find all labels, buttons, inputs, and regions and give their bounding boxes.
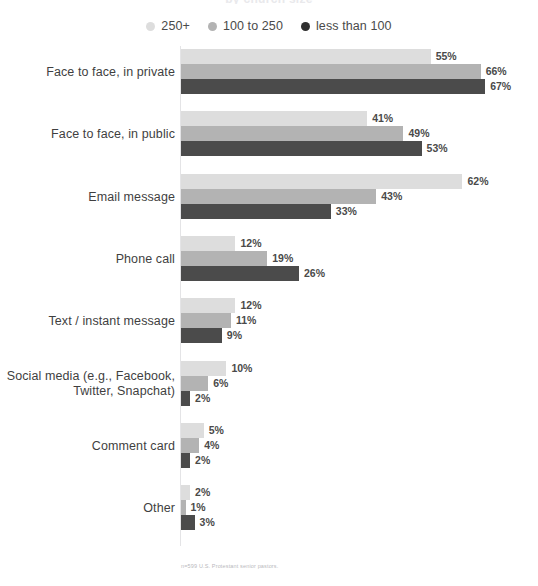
bar-value-label: 26%: [299, 266, 325, 281]
bar[interactable]: [181, 79, 485, 94]
bar[interactable]: [181, 126, 403, 141]
bar-value-label: 2%: [190, 453, 210, 468]
chart-group: Phone call12%19%26%: [0, 236, 538, 283]
bar[interactable]: [181, 49, 431, 64]
bar[interactable]: [181, 174, 462, 189]
category-label: Face to face, in public: [0, 111, 175, 158]
bar-value-label: 3%: [195, 515, 215, 530]
bar[interactable]: [181, 189, 376, 204]
category-label: Text / instant message: [0, 298, 175, 345]
bar-value-label: 5%: [204, 423, 224, 438]
bar-row: 6%: [181, 376, 538, 391]
bar-value-label: 66%: [481, 64, 507, 79]
bar-row: 9%: [181, 328, 538, 343]
chart-group: Face to face, in private55%66%67%: [0, 49, 538, 96]
bar-row: 43%: [181, 189, 538, 204]
category-label: Phone call: [0, 236, 175, 283]
category-label-line: Face to face, in private: [46, 65, 175, 80]
chart-group: Social media (e.g., Facebook,Twitter, Sn…: [0, 361, 538, 408]
category-label-line: Email message: [88, 190, 175, 205]
bar-row: 12%: [181, 236, 538, 251]
bar[interactable]: [181, 423, 204, 438]
bar-stack: 12%19%26%: [181, 236, 538, 283]
category-label-line: Social media (e.g., Facebook,: [7, 369, 175, 384]
bar-row: 49%: [181, 126, 538, 141]
bar[interactable]: [181, 391, 190, 406]
bar-stack: 10%6%2%: [181, 361, 538, 408]
chart-group: Comment card5%4%2%: [0, 423, 538, 470]
bar[interactable]: [181, 236, 235, 251]
bar-stack: 55%66%67%: [181, 49, 538, 96]
legend-item[interactable]: 100 to 250: [208, 19, 283, 33]
bar-value-label: 2%: [190, 485, 210, 500]
bar-value-label: 12%: [235, 298, 261, 313]
category-label-line: Twitter, Snapchat): [73, 384, 175, 399]
bar[interactable]: [181, 328, 222, 343]
chart-plot-area: Face to face, in private55%66%67%Face to…: [0, 46, 538, 551]
bar-value-label: 6%: [208, 376, 228, 391]
bar[interactable]: [181, 298, 235, 313]
category-label-line: Other: [143, 501, 175, 516]
bar[interactable]: [181, 204, 331, 219]
bar-row: 67%: [181, 79, 538, 94]
bar[interactable]: [181, 376, 208, 391]
bar-row: 33%: [181, 204, 538, 219]
bar[interactable]: [181, 515, 195, 530]
legend-item[interactable]: less than 100: [301, 19, 392, 33]
bar[interactable]: [181, 438, 199, 453]
bar[interactable]: [181, 313, 231, 328]
bar-row: 2%: [181, 391, 538, 406]
bar[interactable]: [181, 453, 190, 468]
bar[interactable]: [181, 251, 267, 266]
bar[interactable]: [181, 485, 190, 500]
bar[interactable]: [181, 111, 367, 126]
bar-value-label: 53%: [422, 141, 448, 156]
bar-value-label: 11%: [231, 313, 256, 328]
bar-stack: 62%43%33%: [181, 174, 538, 221]
chart-title: by church size: [0, 0, 538, 4]
bar[interactable]: [181, 266, 299, 281]
bar-row: 3%: [181, 515, 538, 530]
legend-item-label: 100 to 250: [223, 19, 283, 33]
bar-value-label: 49%: [403, 126, 429, 141]
category-label-line: Face to face, in public: [51, 127, 175, 142]
category-label: Other: [0, 485, 175, 532]
bar-value-label: 19%: [267, 251, 293, 266]
bar[interactable]: [181, 361, 226, 376]
bar-row: 1%: [181, 500, 538, 515]
legend-item[interactable]: 250+: [146, 19, 190, 33]
bar-stack: 41%49%53%: [181, 111, 538, 158]
bar-row: 5%: [181, 423, 538, 438]
bar-value-label: 2%: [190, 391, 210, 406]
bar-value-label: 12%: [235, 236, 261, 251]
chart-group: Face to face, in public41%49%53%: [0, 111, 538, 158]
bar-row: 53%: [181, 141, 538, 156]
bar-row: 41%: [181, 111, 538, 126]
chart-group: Other2%1%3%: [0, 485, 538, 532]
bar-value-label: 41%: [367, 111, 393, 126]
chart-footnote: n=599 U.S. Protestant senior pastors.: [181, 563, 278, 569]
bar-value-label: 1%: [186, 500, 206, 515]
chart-group: Text / instant message12%11%9%: [0, 298, 538, 345]
bar[interactable]: [181, 141, 422, 156]
bar-row: 10%: [181, 361, 538, 376]
bar-value-label: 10%: [226, 361, 252, 376]
category-label: Social media (e.g., Facebook,Twitter, Sn…: [0, 361, 175, 408]
bar-row: 4%: [181, 438, 538, 453]
chart-legend: 250+100 to 250less than 100: [0, 19, 538, 33]
chart-group: Email message62%43%33%: [0, 174, 538, 221]
category-label-line: Phone call: [116, 252, 175, 267]
bar-stack: 5%4%2%: [181, 423, 538, 470]
bar-value-label: 55%: [431, 49, 457, 64]
bar-row: 11%: [181, 313, 538, 328]
bar-value-label: 9%: [222, 328, 242, 343]
legend-swatch-icon: [301, 22, 310, 31]
bar-value-label: 67%: [485, 79, 511, 94]
bar-value-label: 33%: [331, 204, 357, 219]
bar[interactable]: [181, 64, 481, 79]
bar-value-label: 43%: [376, 189, 402, 204]
bar-value-label: 62%: [462, 174, 488, 189]
bar-value-label: 4%: [199, 438, 219, 453]
bar-stack: 12%11%9%: [181, 298, 538, 345]
bar-stack: 2%1%3%: [181, 485, 538, 532]
